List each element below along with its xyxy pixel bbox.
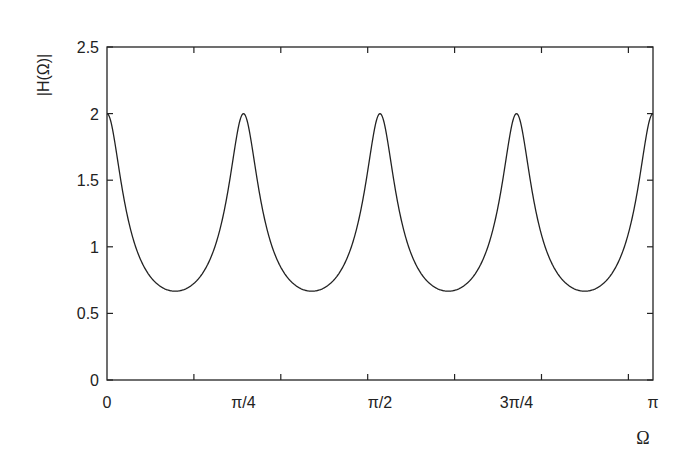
x-tick-label: 0 [103, 394, 112, 411]
y-tick-label: 2.5 [77, 39, 99, 56]
x-axis-ticks: 0π/4π/23π/4π [103, 47, 659, 411]
x-tick-label: 3π/4 [500, 394, 533, 411]
y-tick-label: 2 [90, 106, 99, 123]
x-tick-label: π/2 [368, 394, 392, 411]
y-tick-label: 0.5 [77, 305, 99, 322]
y-tick-label: 1 [90, 239, 99, 256]
x-axis-title: Ω [636, 428, 649, 448]
y-tick-label: 0 [90, 372, 99, 389]
plot-frame [107, 47, 653, 380]
x-tick-label: π/4 [231, 394, 255, 411]
magnitude-curve [107, 114, 653, 292]
y-tick-label: 1.5 [77, 172, 99, 189]
y-axis-ticks: 00.511.522.5 [77, 39, 653, 389]
x-tick-label: π [647, 394, 658, 411]
chart: 0π/4π/23π/4π 00.511.522.5 Ω |H(Ω)| [0, 0, 689, 476]
y-axis-title: |H(Ω)| [35, 54, 52, 96]
